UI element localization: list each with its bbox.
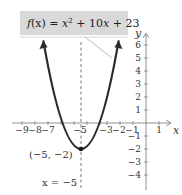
x-axis: −9 −8 −7 −5 −3 −2 −1 1 x [12,121,180,137]
parabola-graph: f(x) = x2 + 10x + 23 −9 −8 −7 −5 −3 −2 −… [0,0,182,195]
y-tick-label: 2 [135,92,141,102]
x-tick-label: −3 [99,125,113,135]
x-tick-label: −9 [15,125,29,135]
x-tick-label: 1 [156,125,162,135]
x-tick-label: −7 [41,125,55,135]
axis-of-symmetry-label: x = −5 [42,177,77,188]
x-tick-label: −2 [112,125,125,135]
y-tick-label: −1 [128,131,141,141]
y-tick-label: 1 [135,105,141,115]
y-tick-label: −4 [128,170,142,180]
function-label-box: f(x) = x2 + 10x + 23 [20,11,139,37]
x-axis-label: x [173,124,180,137]
y-tick-label: 5 [135,53,141,63]
vertex-label: (−5, −2) [29,149,73,160]
y-axis: y 6 5 4 3 2 1 −1 −2 −3 −4 [128,27,148,190]
y-axis-label: y [134,27,142,40]
function-label: f(x) = x2 + 10x + 23 [26,17,139,30]
curve-arrow-right-icon [115,40,123,49]
curve-arrow-left-icon [40,40,48,49]
x-tick-label: −8 [28,125,42,135]
label-connector-line [85,37,112,58]
y-tick-label: 6 [135,40,141,50]
y-tick-label: −2 [128,144,141,154]
vertex-point [79,147,84,152]
x-tick-label: −5 [73,125,87,135]
y-tick-label: −3 [128,157,142,167]
y-tick-label: 3 [135,79,141,89]
y-tick-label: 4 [135,66,141,76]
